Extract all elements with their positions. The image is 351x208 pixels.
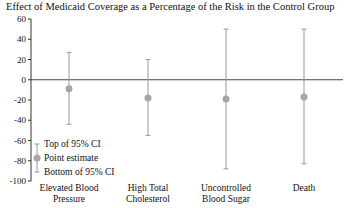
point-estimate-marker <box>145 94 152 101</box>
point-estimate-marker <box>301 93 308 100</box>
legend-top-ci: Top of 95% CI <box>44 139 101 149</box>
y-tick-label: -60 <box>14 136 26 146</box>
category-label-line: Uncontrolled <box>186 183 266 194</box>
category-label-high-total-cholesterol: High Total Cholesterol <box>108 183 188 205</box>
legend-point-icon <box>34 155 41 162</box>
category-label-line: Pressure <box>29 194 109 205</box>
y-tick-label: 60 <box>17 14 27 24</box>
category-label-elevated-blood-pressure: Elevated Blood Pressure <box>29 183 109 205</box>
category-label-line: High Total <box>108 183 188 194</box>
y-tick-label: -80 <box>14 156 26 166</box>
category-label-line: Death <box>264 183 344 194</box>
legend-bottom-ci: Bottom of 95% CI <box>44 167 114 177</box>
category-label-line: Blood Sugar <box>186 194 266 205</box>
category-label-death: Death <box>264 183 344 194</box>
y-tick-label: -40 <box>14 115 26 125</box>
category-label-line: Cholesterol <box>108 194 188 205</box>
y-tick-label: -100 <box>10 176 27 186</box>
y-tick-label: 20 <box>17 55 27 65</box>
y-tick-label: 40 <box>17 34 27 44</box>
y-tick-label: -20 <box>14 95 26 105</box>
point-estimate-marker <box>66 85 73 92</box>
legend-point-estimate: Point estimate <box>44 153 98 163</box>
category-label-line: Elevated Blood <box>29 183 109 194</box>
y-tick-label: 0 <box>22 75 27 85</box>
point-estimate-marker <box>223 95 230 102</box>
category-label-uncontrolled-blood-sugar: Uncontrolled Blood Sugar <box>186 183 266 205</box>
